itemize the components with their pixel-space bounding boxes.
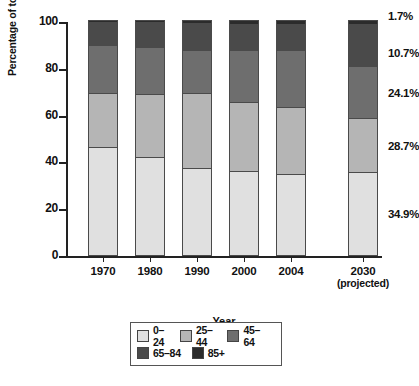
bar-segment xyxy=(136,158,164,255)
legend-item-25–44: 25–44 xyxy=(180,324,217,348)
plot-area: Percentage of total population 020406080… xyxy=(66,22,382,258)
bar-1980 xyxy=(135,20,165,256)
legend-swatch-icon xyxy=(137,330,149,342)
legend-label: 0–24 xyxy=(153,324,169,348)
bar-1970 xyxy=(88,20,118,256)
x-axis-label-text: 2030 xyxy=(351,265,376,277)
x-axis-line xyxy=(66,256,382,258)
legend-label: 45–64 xyxy=(243,324,264,348)
bar-segment xyxy=(349,67,377,118)
clipped-footer-caption xyxy=(10,375,402,385)
bar-segment xyxy=(89,94,117,149)
legend-item-0–24: 0–24 xyxy=(137,324,169,348)
x-axis-label-2004: 2004 xyxy=(256,265,326,277)
bar-segment xyxy=(349,25,377,67)
legend: 0–2425–4445–6465–8485+ xyxy=(130,322,282,366)
y-axis-tick xyxy=(59,162,66,164)
legend-item-65–84: 65–84 xyxy=(137,347,181,359)
bar-segment xyxy=(349,173,377,255)
annotation-24.1: 24.1% xyxy=(388,87,419,99)
y-axis-line xyxy=(66,22,68,258)
bar-segment xyxy=(277,25,305,51)
bar-2030 xyxy=(348,20,378,256)
bar-segment xyxy=(183,94,211,169)
clipped-header-text xyxy=(18,0,398,7)
bar-2000 xyxy=(229,20,259,256)
bar-segment xyxy=(277,108,305,175)
legend-label: 65–84 xyxy=(153,347,181,359)
y-axis-tick-label: 60 xyxy=(20,108,58,122)
legend-label: 25–44 xyxy=(196,324,217,348)
legend-label: 85+ xyxy=(208,347,225,359)
y-axis-tick-label: 20 xyxy=(20,201,58,215)
bar-1990 xyxy=(182,20,212,256)
bar-segment xyxy=(136,48,164,95)
bar-segment xyxy=(183,24,211,51)
bar-segment xyxy=(89,46,117,94)
y-axis-title: Percentage of total population xyxy=(6,0,18,76)
x-axis-tick xyxy=(150,256,151,262)
x-axis-label-text: 2004 xyxy=(279,265,304,277)
bar-segment xyxy=(136,23,164,48)
y-axis-tick-label: 80 xyxy=(20,61,58,75)
x-axis-label-sublabel: (projected) xyxy=(328,277,398,289)
x-axis-tick xyxy=(363,256,364,262)
legend-swatch-icon xyxy=(227,330,239,342)
bar-segment xyxy=(230,25,258,51)
bar-segment xyxy=(183,169,211,255)
legend-row: 0–2425–4445–64 xyxy=(137,327,275,344)
y-axis-tick-label: 40 xyxy=(20,154,58,168)
annotation-1.7: 1.7% xyxy=(388,10,413,22)
x-axis-tick xyxy=(103,256,104,262)
y-axis-tick xyxy=(59,22,66,24)
y-axis-tick xyxy=(59,116,66,118)
y-axis-tick-label: 0 xyxy=(20,248,58,262)
annotation-28.7: 28.7% xyxy=(388,140,419,152)
x-axis-label-text: 1980 xyxy=(138,265,163,277)
bar-segment xyxy=(89,23,117,46)
x-axis-label-2030: 2030(projected) xyxy=(328,265,398,289)
annotation-34.9: 34.9% xyxy=(388,208,419,220)
bar-segment xyxy=(136,95,164,159)
bar-2004 xyxy=(276,20,306,256)
x-axis-label-text: 1970 xyxy=(91,265,116,277)
bar-segment xyxy=(230,51,258,103)
legend-swatch-icon xyxy=(137,347,149,359)
y-axis-tick-label: 100 xyxy=(20,14,58,28)
bar-segment xyxy=(89,148,117,255)
y-axis-tick xyxy=(59,256,66,258)
y-axis-tick xyxy=(59,69,66,71)
y-axis-tick xyxy=(59,209,66,211)
annotation-10.7: 10.7% xyxy=(388,47,419,59)
bar-segment xyxy=(230,172,258,255)
legend-item-85+: 85+ xyxy=(192,347,225,359)
bar-segment xyxy=(349,119,377,174)
legend-item-45–64: 45–64 xyxy=(227,324,264,348)
bar-segment xyxy=(230,103,258,172)
legend-swatch-icon xyxy=(180,330,192,342)
bar-segment xyxy=(277,175,305,255)
x-axis-label-text: 1990 xyxy=(185,265,210,277)
x-axis-label-text: 2000 xyxy=(232,265,257,277)
x-axis-tick xyxy=(197,256,198,262)
bar-segment xyxy=(277,51,305,107)
bar-segment xyxy=(183,51,211,94)
x-axis-tick xyxy=(291,256,292,262)
x-axis-tick xyxy=(244,256,245,262)
legend-swatch-icon xyxy=(192,347,204,359)
